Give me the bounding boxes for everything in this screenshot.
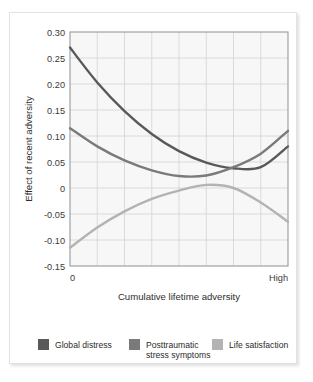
legend-label-life-satisfaction: Life satisfaction [229,340,288,350]
legend-swatch-life-satisfaction [212,339,223,350]
legend-swatch-global-distress [38,339,49,350]
y-tick-label: 0.25 [47,54,65,64]
y-tick-label: 0.30 [47,28,65,38]
x-axis-title: Cumulative lifetime adversity [118,291,240,302]
y-tick-label: 0.05 [47,158,65,168]
y-tick-label: 0.15 [47,106,65,116]
y-tick-label: 0 [60,184,65,194]
legend-label-posttraumatic-stress-line2: stress symptoms [146,350,210,360]
y-axis-tick-labels: 0.30 0.25 0.20 0.15 0.10 0.05 0 -0.05 -0… [44,28,65,272]
y-tick-label: -0.15 [44,262,65,272]
y-tick-label: 0.20 [47,80,65,90]
y-axis-title: Effect of recent adversity [23,96,34,202]
y-tick-label: 0.10 [47,132,65,142]
chart-figure: 0.30 0.25 0.20 0.15 0.10 0.05 0 -0.05 -0… [0,0,313,382]
y-tick-label: -0.10 [44,236,65,246]
legend-swatch-posttraumatic-stress [129,339,140,350]
y-tick-label: -0.05 [44,210,65,220]
x-tick-label-max: High [269,273,288,283]
line-chart: 0.30 0.25 0.20 0.15 0.10 0.05 0 -0.05 -0… [0,0,313,382]
x-tick-label-min: 0 [70,273,75,283]
chart-legend: Global distress Posttraumatic stress sym… [38,339,288,360]
chart-plot-wrapper: 0.30 0.25 0.20 0.15 0.10 0.05 0 -0.05 -0… [0,0,313,382]
legend-label-posttraumatic-stress-line1: Posttraumatic [146,340,199,350]
legend-label-global-distress: Global distress [55,340,112,350]
